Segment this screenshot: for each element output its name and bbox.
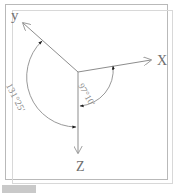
caption-tag	[2, 185, 36, 193]
x-axis-line	[78, 60, 151, 72]
axis-label-x: X	[157, 54, 167, 68]
angle-arc-y-z	[27, 41, 76, 127]
caption-text	[45, 185, 180, 194]
caption-strip	[0, 184, 185, 195]
axis-label-z: Z	[76, 160, 85, 174]
axis-label-y: y	[11, 8, 19, 23]
figure-screenshot: y X Z 131°25' 97°10'	[0, 0, 185, 195]
y-axis-line	[23, 23, 78, 72]
